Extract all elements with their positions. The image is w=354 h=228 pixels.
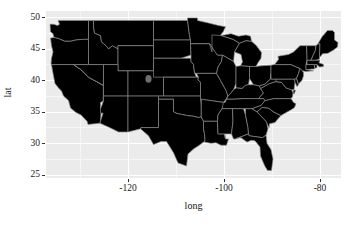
axis-tick-x — [128, 179, 129, 182]
state-south-dakota — [154, 40, 192, 58]
axis-tick-label-x: -80 — [314, 184, 327, 194]
axis-tick-label-y: 30 — [0, 139, 40, 149]
axis-tick-label-x: -100 — [215, 184, 232, 194]
state-michigan-lower — [234, 41, 261, 67]
state-mississippi — [218, 109, 233, 139]
state-connecticut — [306, 65, 315, 70]
axis-tick-label-y: 50 — [0, 13, 40, 23]
ggplot-map-figure: 50 45 40 35 30 25 -120 -100 -80 long lat — [0, 0, 354, 228]
state-new-mexico — [128, 96, 159, 132]
state-florida — [236, 134, 274, 171]
axis-title-x: long — [46, 200, 341, 211]
state-rhode-island — [315, 65, 318, 69]
state-nebraska — [154, 58, 197, 77]
state-maine — [318, 31, 338, 58]
axis-tick-label-y: 25 — [0, 170, 40, 180]
state-oregon — [51, 37, 89, 64]
state-wyoming — [118, 46, 153, 71]
axis-tick-x — [320, 179, 321, 182]
axis-tick-y — [42, 112, 45, 113]
axis-tick-y — [42, 143, 45, 144]
axis-tick-label-x: -120 — [119, 184, 136, 194]
axis-title-y: lat — [2, 68, 13, 118]
axis-tick-y — [42, 80, 45, 81]
axis-tick-label-y: 45 — [0, 44, 40, 54]
state-kansas — [164, 77, 201, 96]
state-arizona — [100, 96, 128, 132]
axis-tick-y — [42, 17, 45, 18]
axis-tick-y — [42, 175, 45, 176]
denver-point — [145, 75, 151, 83]
axis-tick-y — [42, 49, 45, 50]
axis-tick-x — [224, 179, 225, 182]
state-north-dakota — [154, 20, 191, 40]
us-states-map — [46, 11, 341, 178]
plot-panel — [46, 11, 341, 178]
